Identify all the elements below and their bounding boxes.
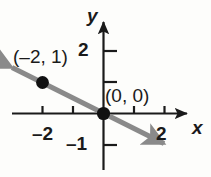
point-origin [97, 107, 110, 120]
x-axis-label: x [192, 118, 203, 137]
y-tick-label-2: 2 [78, 40, 89, 59]
x-tick-label-2: 2 [156, 124, 167, 143]
point-label-neg2-1: (–2, 1) [13, 47, 68, 66]
y-axis-label: y [87, 6, 98, 25]
point-label-origin: (0, 0) [105, 86, 149, 105]
point-neg2-1 [36, 76, 49, 89]
y-tick-label-neg1: –1 [66, 134, 87, 153]
coordinate-plane-figure: (–2, 1) (0, 0) –2 2 2 –1 x y [0, 0, 211, 177]
x-tick-label-neg2: –2 [32, 124, 53, 143]
